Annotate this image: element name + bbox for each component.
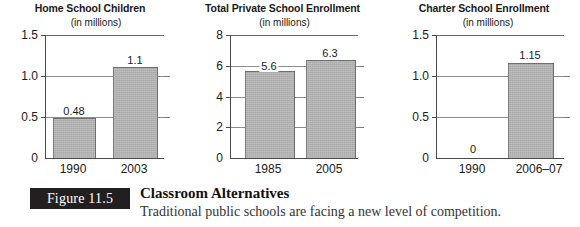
ytick-label-8: 8 [216, 28, 223, 42]
chart-subtitle: (in millions) [6, 17, 186, 28]
bar-1990 [53, 118, 96, 158]
ytick-label-0.5: 0.5 [412, 110, 429, 124]
ytick-label-1.5: 1.5 [412, 28, 429, 42]
gridline-1.5 [46, 35, 164, 36]
plot-area: 1.5 1.0 0.5 0 0.48 1.1 [45, 35, 164, 159]
ytick-label-0: 0 [31, 151, 38, 165]
figure-classroom-alternatives: Home School Children (in millions) 1.5 1… [0, 0, 580, 227]
xtick-label-2003: 2003 [121, 162, 148, 176]
ytick-label-1.5: 1.5 [21, 28, 38, 42]
bar-value-2003: 1.1 [127, 54, 142, 66]
ytick-label-0: 0 [422, 151, 429, 165]
figure-caption-title: Classroom Alternatives [140, 185, 289, 202]
ytick-label-1.0: 1.0 [21, 69, 38, 83]
ytick-label-0: 0 [216, 151, 223, 165]
tick-1.0 [432, 76, 437, 77]
gridline-1.5 [437, 35, 564, 36]
bar-2006-07 [508, 63, 554, 158]
figure-caption-text: Traditional public schools are facing a … [140, 204, 501, 220]
figure-caption-block: Figure 11.5 Classroom Alternatives Tradi… [0, 184, 580, 227]
tick-right-0.5 [164, 117, 170, 118]
chart-title: Total Private School Enrollment [190, 2, 375, 14]
chart-title: Charter School Enrollment [388, 2, 580, 14]
xtick-label-2005: 2005 [316, 162, 343, 176]
plot-area: 1.5 1.0 0.5 0 0 1.15 [436, 35, 564, 159]
bar-2003 [113, 67, 158, 158]
bar-value-1985: 5.6 [259, 60, 278, 72]
xtick-label-1990: 1990 [60, 162, 87, 176]
tick-0.5 [41, 117, 46, 118]
ytick-label-6: 6 [216, 59, 223, 73]
tick-2 [226, 127, 231, 128]
tick-0.5 [432, 117, 437, 118]
chart-subtitle: (in millions) [392, 17, 580, 28]
tick-right-4 [358, 97, 364, 98]
tick-right-0.5 [564, 117, 570, 118]
tick-right-1.0 [164, 76, 170, 77]
xtick-label-1985: 1985 [255, 162, 282, 176]
tick-1.5 [41, 35, 46, 36]
chart-home-school-children: Home School Children (in millions) 1.5 1… [0, 0, 180, 182]
ytick-label-2: 2 [216, 120, 223, 134]
tick-1.5 [432, 35, 437, 36]
tick-right-6 [358, 66, 364, 67]
bar-value-2005: 6.3 [322, 47, 337, 59]
figure-number-badge: Figure 11.5 [30, 188, 130, 209]
ytick-label-0.5: 0.5 [21, 110, 38, 124]
xtick-label-1990: 1990 [459, 162, 486, 176]
xtick-label-2006-07: 2006–07 [516, 162, 563, 176]
bar-2005 [306, 60, 356, 158]
chart-subtitle: (in millions) [192, 17, 377, 28]
tick-4 [226, 97, 231, 98]
chart-charter-school-enrollment: Charter School Enrollment (in millions) … [388, 0, 580, 182]
bar-1985 [245, 71, 295, 158]
ytick-label-1.0: 1.0 [412, 69, 429, 83]
chart-total-private-school-enrollment: Total Private School Enrollment (in mill… [190, 0, 375, 182]
tick-6 [226, 66, 231, 67]
tick-1.0 [41, 76, 46, 77]
gridline-8 [231, 35, 358, 36]
plot-area: 8 6 4 2 0 5.6 6.3 [230, 35, 358, 159]
ytick-label-4: 4 [216, 90, 223, 104]
tick-right-1.0 [564, 76, 570, 77]
tick-8 [226, 35, 231, 36]
bar-value-1990: 0.48 [63, 105, 84, 117]
tick-right-2 [358, 127, 364, 128]
chart-title: Home School Children [0, 2, 180, 14]
bar-value-1990: 0 [470, 143, 476, 155]
bar-value-2006-07: 1.15 [519, 49, 540, 61]
